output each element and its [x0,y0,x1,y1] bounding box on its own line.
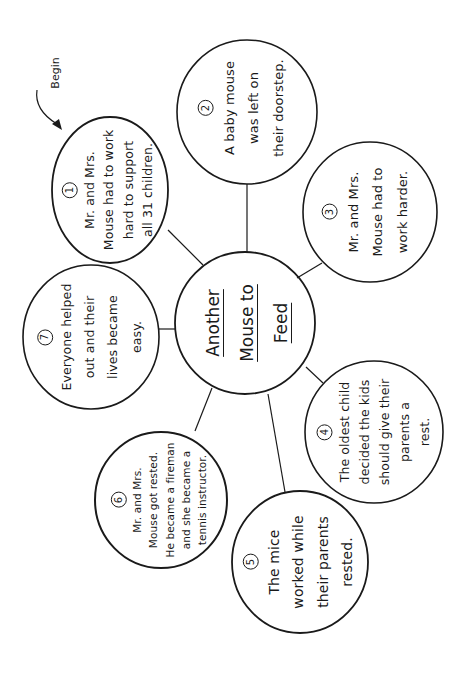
bubble-line: tennis instructor. [194,442,210,557]
bubble-6: 6 Mr. and Mrs. Mouse got rested. He beca… [110,442,210,557]
bubble-line: easy. [125,284,148,391]
bubble-line: should give their [375,379,395,486]
center-topic-line: Another [196,284,230,362]
step-number-badge: 1 [62,182,78,198]
bubble-line: Mouse had to work [99,130,118,251]
bubble-3: 3 Mr. and Mrs. Mouse had to work harder. [317,167,416,256]
connector-3 [297,263,322,278]
connector-6 [195,388,212,431]
bubble-line: was left on [242,59,267,157]
bubble-line: work harder. [391,167,416,256]
bubble-line: The mice [261,515,286,608]
step-number-badge: 7 [37,329,53,345]
bubble-line: their doorstep. [267,59,292,157]
bubble-line: worked while [286,515,311,608]
bubble-line: rested. [335,515,360,608]
connector-1 [168,230,203,265]
bubble-1: 1 Mr. and Mrs. Mouse had to work hard to… [59,130,158,251]
bubble-line: lives became [102,284,125,391]
bubble-line: decided the kids [355,379,375,486]
bubble-line: Mr. and Mrs. [80,130,99,251]
begin-label: Begin [49,57,62,88]
bubble-line: rest. [415,379,435,486]
bubble-4: 4 The oldest child decided the kids shou… [314,379,435,486]
center-topic-line: Mouse to [230,284,264,362]
bubble-line: Mr. and Mrs. [341,167,366,256]
bubble-line: and she became a [178,442,194,557]
step-number-badge: 5 [243,554,259,570]
bubble-7: 7 Everyone helped out and their lives be… [32,284,148,391]
step-number-badge: 2 [198,100,214,116]
story-web-diagram: Begin Another Mouse to Feed 1 Mr. and Mr… [0,0,456,680]
center-topic: Another Mouse to Feed [196,284,298,362]
bubble-line: He became a fireman [161,442,177,557]
bubble-line: all 31 children. [138,130,157,251]
bubble-2: 2 A baby mouse was left on their doorste… [193,59,292,157]
bubble-line: out and their [78,284,101,391]
bubble-line: hard to support [119,130,138,251]
bubble-line: Mouse had to [366,167,391,256]
bubble-5: 5 The mice worked while their parents re… [237,515,360,608]
bubble-line: Mouse got rested. [145,442,161,557]
begin-arrowhead-icon [52,119,62,130]
bubble-line: The oldest child [335,379,355,486]
bubble-line: parents a [395,379,415,486]
bubble-line: Everyone helped [55,284,78,391]
step-number-badge: 3 [322,204,338,220]
bubble-line: A baby mouse [217,59,242,157]
bubble-line: their parents [310,515,335,608]
step-number-badge: 6 [111,492,127,508]
step-number-badge: 4 [317,424,333,440]
center-topic-line: Feed [264,284,298,362]
bubble-line: Mr. and Mrs. [129,442,145,557]
begin-arrow-icon [37,90,57,124]
connector-5 [268,394,285,492]
